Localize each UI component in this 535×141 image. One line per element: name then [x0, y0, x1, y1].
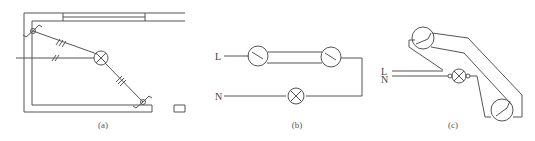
switched-wire: [470, 76, 491, 117]
lamp-icon: [94, 51, 108, 65]
two-way-switch-icon: [412, 27, 434, 49]
wire-switch1-lamp: [33, 31, 97, 54]
wire-incoming: [16, 55, 94, 61]
panel-c: L N (c): [381, 27, 522, 130]
lamp-icon: [448, 69, 470, 83]
lamp-icon: [288, 88, 304, 104]
two-way-switch-icon: [248, 46, 268, 66]
neutral-label: N: [381, 74, 388, 85]
wire-lamp-switch2: [105, 63, 143, 102]
switched-live-wire: [306, 58, 362, 96]
panel-b: L N (b): [215, 46, 362, 130]
wiring-diagram-figure: (a) L N (b): [0, 0, 535, 141]
neutral-label: N: [215, 91, 222, 102]
panel-a: (a): [16, 13, 185, 130]
room-walls: [24, 13, 185, 112]
two-way-switch-icon: [491, 99, 513, 121]
panel-a-caption: (a): [98, 120, 108, 130]
panel-c-caption: (c): [448, 120, 458, 130]
two-way-switch-icon: [321, 47, 341, 67]
switch-icon: [133, 96, 152, 108]
panel-b-caption: (b): [292, 120, 303, 130]
live-label: L: [215, 51, 221, 62]
